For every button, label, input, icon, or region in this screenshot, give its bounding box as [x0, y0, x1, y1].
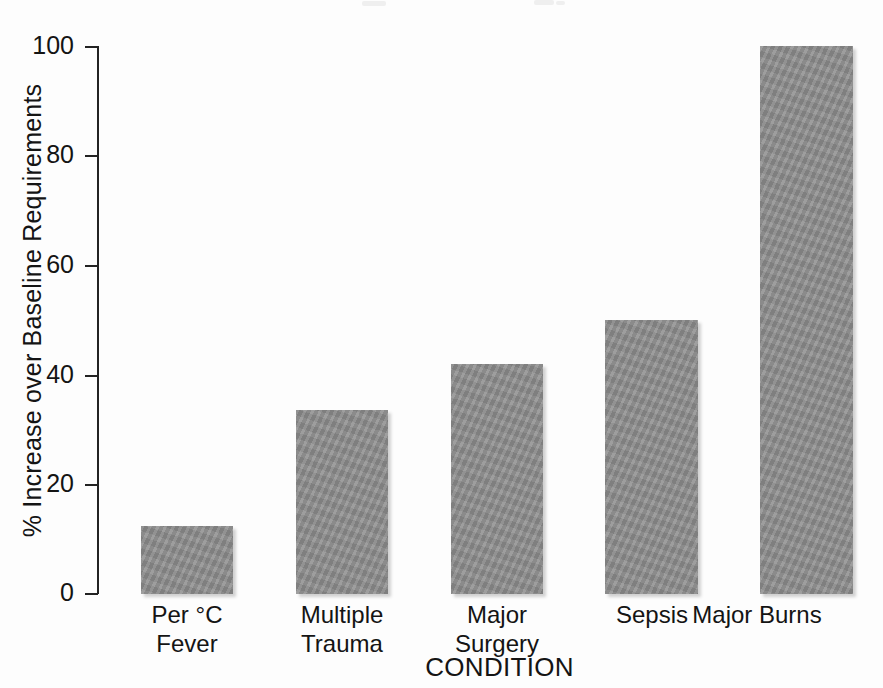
x-axis-title: CONDITION	[0, 652, 883, 683]
y-tick-label: 80	[14, 142, 74, 167]
y-tick-mark	[85, 375, 98, 377]
bar-chart-figure: % Increase over Baseline Requirements 10…	[0, 0, 883, 688]
y-tick-0: 0	[0, 593, 98, 595]
y-tick-mark	[85, 46, 98, 48]
plot-area	[99, 46, 883, 594]
y-tick-label: 60	[14, 252, 74, 277]
bar-major-surgery[interactable]	[451, 364, 543, 594]
scan-artifact	[362, 1, 386, 6]
bar-per-c-fever[interactable]	[141, 526, 233, 595]
y-tick-mark	[85, 484, 98, 486]
y-tick-20: 20	[0, 484, 98, 486]
y-tick-label: 100	[14, 33, 74, 58]
y-tick-40: 40	[0, 375, 98, 377]
y-tick-100: 100	[0, 46, 98, 48]
bar-multiple-trauma[interactable]	[296, 410, 388, 594]
bar-major-burns[interactable]	[760, 46, 853, 594]
x-tick-label-major-burns: Major Burns	[611, 600, 883, 629]
y-tick-label: 20	[14, 471, 74, 496]
y-tick-mark	[85, 155, 98, 157]
y-tick-60: 60	[0, 265, 98, 267]
y-tick-80: 80	[0, 155, 98, 157]
y-tick-mark	[85, 265, 98, 267]
y-tick-label: 40	[14, 362, 74, 387]
y-tick-mark	[85, 593, 98, 595]
y-axis-title: % Increase over Baseline Requirements	[18, 31, 47, 591]
scan-artifact	[534, 0, 554, 5]
y-tick-label: 0	[14, 580, 74, 605]
bar-sepsis[interactable]	[605, 320, 698, 594]
scan-artifact	[556, 1, 565, 5]
x-axis-title-text: CONDITION	[425, 652, 574, 682]
